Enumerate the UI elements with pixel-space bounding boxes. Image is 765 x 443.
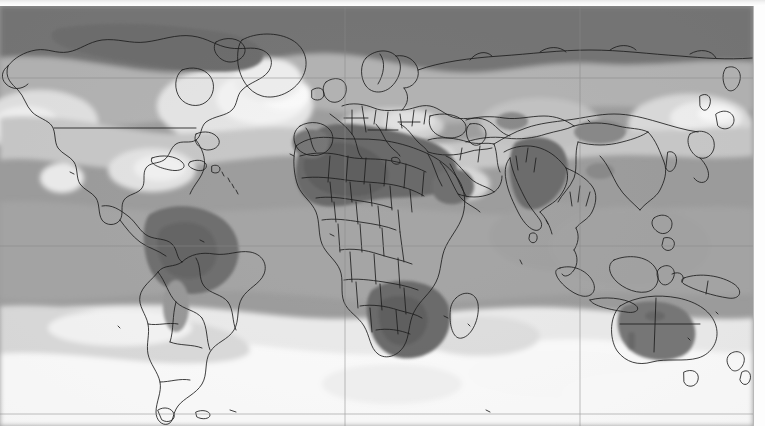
map-plate[interactable]: [0, 6, 754, 427]
map-raster: [0, 6, 753, 426]
scan-bottom-edge: [0, 426, 765, 443]
world-map-figure: [0, 0, 765, 443]
